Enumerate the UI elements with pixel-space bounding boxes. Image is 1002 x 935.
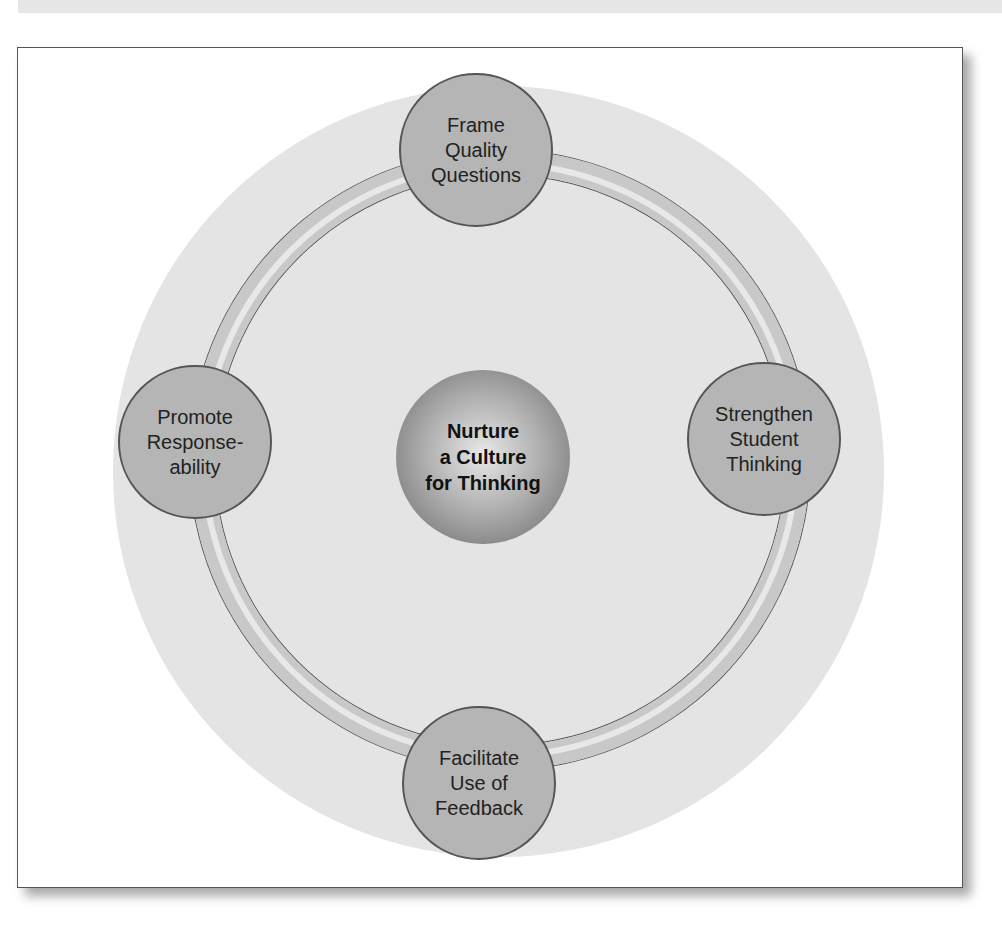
node-promote-response-ability: Promote Response- ability xyxy=(118,365,272,519)
top-band xyxy=(18,0,1002,13)
node-label: Facilitate Use of Feedback xyxy=(435,746,523,821)
node-facilitate-use-of-feedback: Facilitate Use of Feedback xyxy=(402,706,556,860)
node-label: Frame Quality Questions xyxy=(431,113,521,188)
center-label: Nurture a Culture for Thinking xyxy=(425,418,541,496)
node-frame-quality-questions: Frame Quality Questions xyxy=(399,73,553,227)
node-label: Strengthen Student Thinking xyxy=(715,402,813,477)
node-strengthen-student-thinking: Strengthen Student Thinking xyxy=(687,362,841,516)
node-label: Promote Response- ability xyxy=(147,405,244,480)
center-node-nurture-culture: Nurture a Culture for Thinking xyxy=(396,370,570,544)
